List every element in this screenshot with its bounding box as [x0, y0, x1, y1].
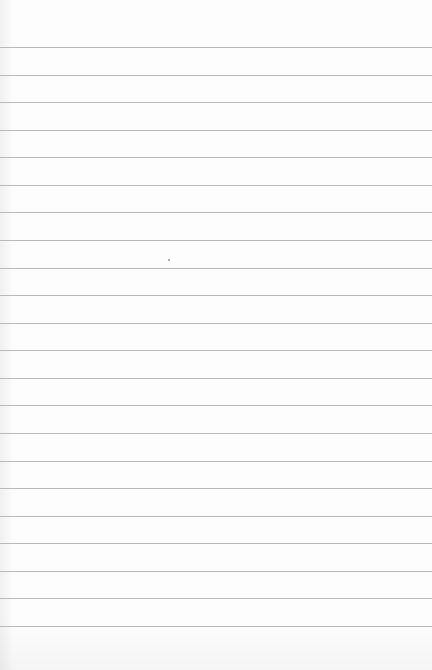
ruled-line [0, 323, 432, 324]
ruled-line [0, 405, 432, 406]
ruled-line [0, 295, 432, 296]
ruled-line [0, 488, 432, 489]
ruled-line [0, 571, 432, 572]
ruled-line [0, 268, 432, 269]
ruled-line [0, 598, 432, 599]
ruled-line [0, 543, 432, 544]
ruled-line [0, 212, 432, 213]
ruled-line [0, 47, 432, 48]
ruled-line [0, 185, 432, 186]
ruled-line [0, 102, 432, 103]
ruled-line [0, 626, 432, 627]
ruled-line [0, 130, 432, 131]
ruled-line [0, 461, 432, 462]
ruled-line [0, 240, 432, 241]
ruled-line [0, 75, 432, 76]
ruled-line [0, 433, 432, 434]
ruled-line [0, 350, 432, 351]
paper-speck [168, 259, 170, 261]
lined-paper [0, 0, 432, 670]
ruled-line [0, 516, 432, 517]
ruled-line [0, 378, 432, 379]
ruled-line [0, 157, 432, 158]
